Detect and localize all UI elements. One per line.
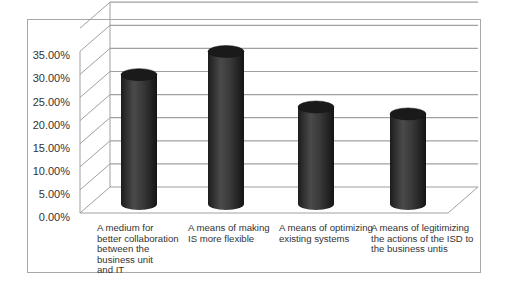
y-tick-label: 5.00% [39, 188, 70, 200]
x-axis-category-label: A means of makingIS more flexible [188, 223, 270, 244]
bar [298, 101, 334, 210]
y-tick-label: 10.00% [33, 165, 71, 177]
y-tick-label: 25.00% [33, 96, 71, 108]
bar [390, 108, 426, 210]
bar [121, 69, 157, 210]
y-tick-label: 0.00% [39, 211, 70, 223]
y-axis-ticks: 0.00%5.00%10.00%15.00%20.00%25.00%30.00%… [33, 49, 71, 223]
bar [208, 46, 244, 210]
x-axis-category-label: A medium forbetter collaborationbetween … [97, 223, 179, 276]
y-tick-label: 15.00% [33, 142, 71, 154]
y-tick-label: 20.00% [33, 119, 71, 131]
y-tick-label: 35.00% [33, 49, 71, 61]
bars [121, 46, 426, 210]
x-axis-category-label: A means of optimizingexisting systems [279, 223, 373, 244]
y-tick-label: 30.00% [33, 72, 71, 84]
x-axis-category-label: A means of legitimizingthe actions of th… [371, 223, 473, 255]
